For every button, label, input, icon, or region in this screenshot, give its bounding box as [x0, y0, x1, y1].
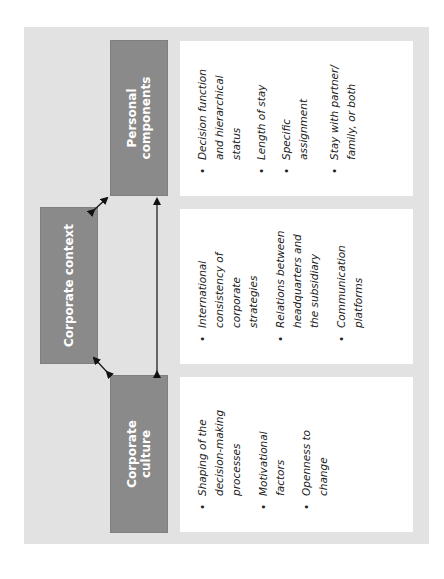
- list-item: •Specific assignment: [278, 80, 312, 174]
- corporate-context-panel: •International consistency of corporate …: [180, 209, 413, 364]
- list-item: •Decision function and hierarchical stat…: [194, 49, 245, 174]
- corporate-culture-list: •Shaping of the decision-making processe…: [194, 385, 341, 510]
- list-item: •Motivational factors: [255, 406, 289, 510]
- list-item: •Shaping of the decision-making processe…: [194, 385, 245, 510]
- list-item: •Relations between headquarters and the …: [272, 217, 323, 342]
- diagram-frame: Corporate culture Corporate context Pers…: [24, 27, 429, 544]
- corporate-culture-panel: •Shaping of the decision-making processe…: [180, 377, 413, 532]
- list-item: •International consistency of corporate …: [194, 238, 262, 342]
- list-item: •Communication platforms: [333, 228, 367, 342]
- list-item: •Length of stay: [253, 49, 270, 174]
- list-item: •Stay with partner/ family, or both: [326, 49, 360, 174]
- context-personal-arrow: [94, 198, 107, 210]
- corporate-context-list: •International consistency of corporate …: [194, 217, 376, 342]
- personal-components-panel: •Decision function and hierarchical stat…: [180, 41, 413, 196]
- diagram-canvas: Corporate culture Corporate context Pers…: [24, 27, 429, 544]
- list-item: •Openness to change: [298, 406, 332, 510]
- culture-context-arrow: [94, 358, 107, 372]
- personal-components-list: •Decision function and hierarchical stat…: [194, 49, 369, 174]
